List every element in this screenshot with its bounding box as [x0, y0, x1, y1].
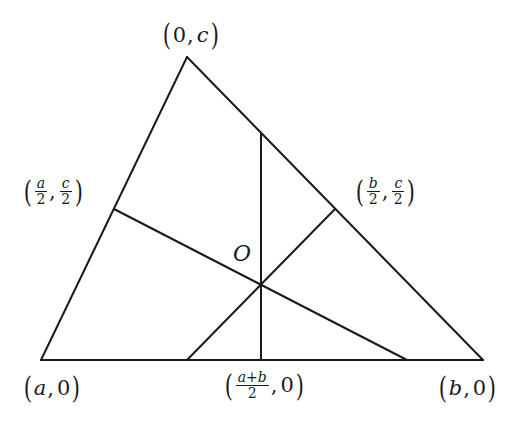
comma: ,	[382, 181, 389, 202]
fraction-y: c 2	[60, 176, 72, 208]
vertex-label-bottom-right: ( b , 0 )	[437, 373, 498, 403]
coord-x: a	[34, 378, 47, 399]
coord-x: 0	[173, 25, 186, 46]
open-paren: (	[163, 20, 171, 50]
numerator: a+b	[236, 370, 269, 386]
vertex-label-bottom-left: ( a , 0 )	[22, 373, 82, 403]
comma: ,	[463, 378, 470, 399]
coord-y: 0	[473, 378, 486, 399]
close-paren: )	[72, 373, 80, 403]
fraction-x: a 2	[35, 176, 47, 208]
coord-y: 0	[57, 378, 70, 399]
midpoint-label-right: ( b 2 , c 2 )	[354, 176, 417, 208]
comma: ,	[271, 375, 278, 396]
comma: ,	[49, 181, 56, 202]
fraction-y: c 2	[392, 176, 404, 208]
triangle-figure	[0, 0, 510, 426]
midpoint-label-base: ( a+b 2 , 0 )	[223, 370, 306, 402]
denominator: 2	[36, 192, 45, 207]
diagram-canvas: ( 0 , c ) ( a 2 , c 2 ) ( b 2 , c 2 )	[0, 0, 510, 426]
numerator: c	[60, 176, 72, 192]
fraction-x: b 2	[367, 176, 380, 208]
close-paren: )	[74, 177, 82, 207]
fraction-x: a+b 2	[236, 370, 269, 402]
comma: ,	[47, 378, 54, 399]
open-paren: (	[439, 373, 447, 403]
open-paren: (	[24, 177, 32, 207]
comma: ,	[187, 25, 194, 46]
open-paren: (	[24, 373, 32, 403]
numerator: c	[392, 176, 404, 192]
coord-y: c	[197, 25, 209, 46]
denominator: 2	[369, 192, 378, 207]
close-paren: )	[488, 373, 496, 403]
circumcenter-label: O	[233, 243, 251, 265]
close-paren: )	[210, 20, 218, 50]
close-paren: )	[296, 371, 304, 401]
numerator: a	[35, 176, 47, 192]
denominator: 2	[248, 386, 257, 401]
center-letter: O	[233, 243, 251, 265]
open-paren: (	[356, 177, 364, 207]
coord-x: b	[449, 378, 462, 399]
numerator: b	[367, 176, 380, 192]
close-paren: )	[407, 177, 415, 207]
open-paren: (	[225, 371, 233, 401]
vertex-label-top: ( 0 , c )	[161, 20, 220, 50]
midpoint-label-left: ( a 2 , c 2 )	[22, 176, 84, 208]
denominator: 2	[394, 192, 403, 207]
coord-y: 0	[280, 375, 293, 396]
denominator: 2	[61, 192, 70, 207]
